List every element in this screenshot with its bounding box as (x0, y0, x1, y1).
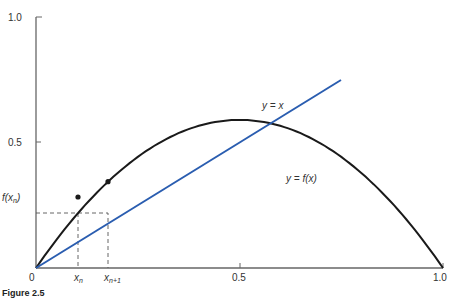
point-xn1-on-curve (105, 179, 110, 184)
x-label-1: 1.0 (433, 272, 447, 283)
y-label-1: 1.0 (8, 12, 22, 23)
cobweb-diagram: 1.0 0.5 0 0.5 1.0 f(xn) xn xn+1 y = x y … (0, 0, 468, 299)
figure-caption: Figure 2.5 (2, 288, 45, 298)
identity-label: y = x (261, 100, 284, 111)
origin-label: 0 (29, 272, 35, 283)
xn1-label: xn+1 (103, 272, 121, 284)
x-label-05: 0.5 (232, 272, 246, 283)
xn-label: xn (73, 272, 83, 284)
fxn-label: f(xn) (2, 192, 20, 204)
curve-label: y = f(x) (285, 173, 317, 184)
point-xn (75, 194, 80, 199)
y-label-05: 0.5 (8, 137, 22, 148)
